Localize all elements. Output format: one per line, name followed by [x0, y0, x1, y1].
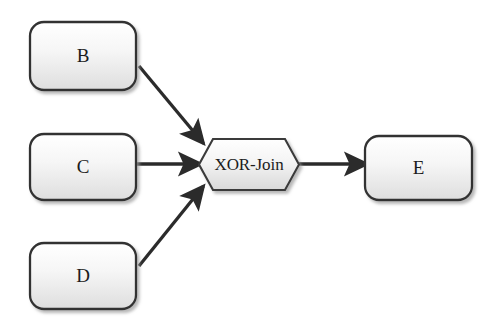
node-c[interactable]: [30, 134, 136, 200]
node-d[interactable]: [30, 243, 136, 309]
nodes-group: [30, 22, 472, 309]
node-e[interactable]: [365, 136, 472, 200]
diagram-canvas: B C D XOR-Join E: [0, 0, 494, 327]
edge-b-to-join: [139, 66, 204, 144]
edge-d-to-join: [139, 186, 204, 266]
node-b[interactable]: [30, 22, 136, 90]
node-xor-join-gateway[interactable]: [199, 139, 299, 190]
diagram-svg-layer: [0, 0, 494, 327]
